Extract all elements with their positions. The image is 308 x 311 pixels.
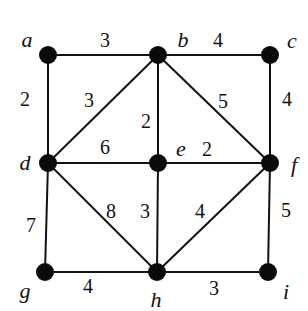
node-label-f: f	[291, 154, 297, 176]
edge-f-i	[268, 163, 270, 272]
edge-f-h	[157, 163, 270, 272]
edge-weight-b-e: 2	[141, 111, 151, 131]
node-label-h: h	[151, 289, 162, 311]
edge-weight-b-c: 4	[213, 30, 223, 50]
edge-weight-e-f: 2	[202, 139, 212, 159]
edge-weight-b-d: 3	[84, 90, 94, 110]
edge-weight-d-h: 8	[106, 201, 116, 221]
node-f	[261, 154, 279, 172]
node-i	[259, 263, 277, 281]
edge-weight-g-h: 4	[83, 276, 93, 296]
edge-weight-f-i: 5	[281, 200, 291, 220]
node-label-c: c	[287, 30, 297, 52]
edge-weight-d-g: 7	[26, 215, 36, 235]
node-h	[148, 263, 166, 281]
node-a	[39, 46, 57, 64]
edge-weight-h-i: 3	[209, 278, 219, 298]
edge-weight-e-h: 3	[140, 201, 150, 221]
node-e	[149, 154, 167, 172]
node-label-g: g	[20, 280, 31, 302]
edge-weight-a-b: 3	[100, 30, 110, 50]
weighted-graph-diagram: 3423254627834543abcdefghi	[0, 0, 308, 311]
edge-weight-f-h: 4	[195, 201, 205, 221]
edge-b-f	[158, 55, 270, 163]
node-label-i: i	[283, 281, 289, 303]
edge-e-h	[157, 163, 158, 272]
edge-weight-a-d: 2	[20, 89, 30, 109]
edge-d-g	[45, 163, 48, 272]
edge-weight-c-f: 4	[282, 89, 292, 109]
node-d	[39, 154, 57, 172]
edge-weight-d-e: 6	[100, 137, 110, 157]
node-c	[261, 46, 279, 64]
node-label-a: a	[22, 29, 33, 51]
node-label-b: b	[178, 29, 189, 51]
node-b	[149, 46, 167, 64]
node-label-d: d	[20, 152, 31, 174]
node-g	[36, 263, 54, 281]
node-label-e: e	[176, 138, 186, 160]
graph-edges	[0, 0, 308, 311]
edge-weight-b-f: 5	[218, 91, 228, 111]
